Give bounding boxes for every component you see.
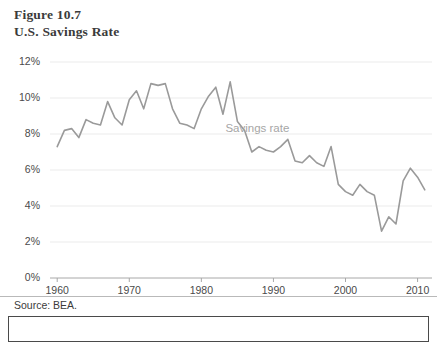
y-tick-label: 6% <box>6 163 40 175</box>
y-tick-label: 12% <box>6 55 40 67</box>
x-tick-label: 2000 <box>324 284 368 296</box>
source-divider <box>0 296 437 297</box>
source-note: Source: BEA. <box>14 299 77 311</box>
bottom-content-box <box>8 316 429 342</box>
page-title: Figure 10.7 U.S. Savings Rate <box>14 6 119 40</box>
y-tick-label: 8% <box>6 127 40 139</box>
figure-title: U.S. Savings Rate <box>14 23 119 40</box>
gridlines <box>50 62 432 242</box>
series-line-savings-rate <box>57 82 425 231</box>
y-tick-label: 0% <box>6 271 40 283</box>
figure-label: Figure 10.7 <box>14 7 81 22</box>
chart-plot-area <box>0 52 437 290</box>
x-tick-label: 1970 <box>107 284 151 296</box>
series-annotation-label: Savings rate <box>225 122 289 134</box>
savings-rate-chart: 0%2%4%6%8%10%12% 19601970198019902000201… <box>0 52 437 290</box>
x-tick-label: 1980 <box>179 284 223 296</box>
top-clipped-artifact <box>14 0 214 4</box>
x-tick-label: 2010 <box>396 284 437 296</box>
x-tick-marks <box>57 278 417 282</box>
x-tick-label: 1990 <box>251 284 295 296</box>
y-tick-label: 10% <box>6 91 40 103</box>
y-tick-label: 2% <box>6 235 40 247</box>
y-tick-label: 4% <box>6 199 40 211</box>
x-tick-label: 1960 <box>35 284 79 296</box>
